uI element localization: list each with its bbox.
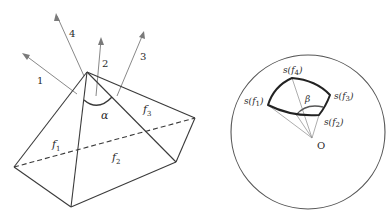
- normal-label-4: 4: [69, 28, 75, 39]
- ray-O-f1: [268, 105, 312, 138]
- vertex-label-sf1: s(f1): [244, 96, 264, 108]
- ray-O-f2b: [296, 114, 312, 138]
- normal-arrow-4: [54, 13, 84, 76]
- edge-apex-bottom: [71, 72, 87, 207]
- edge-base-bottom-right: [71, 162, 176, 207]
- center-label-O: O: [317, 140, 325, 151]
- normal-label-1: 1: [37, 75, 43, 86]
- vertex-label-sf2: s(f2): [324, 117, 344, 129]
- sphere-panel: s(f4) s(f1) s(f3) s(f2) β O: [231, 55, 385, 209]
- ray-O-f4: [292, 78, 312, 138]
- normal-arrow-1: [22, 53, 77, 94]
- normal-label-3: 3: [140, 51, 146, 62]
- edge-base-left-bottom: [14, 167, 71, 207]
- spherical-polygon: [268, 78, 330, 115]
- edge-apex-left: [14, 72, 87, 167]
- hidden-edge-base: [14, 118, 195, 167]
- angle-alpha-arc: [84, 97, 112, 105]
- normal-label-2: 2: [102, 58, 108, 69]
- angle-alpha-label: α: [101, 109, 109, 122]
- figure: 1 2 3 4 α f1 f2 f3 s(f4) s(f1) s(f3) s(f…: [0, 0, 392, 223]
- edge-base-right: [176, 118, 195, 162]
- face-label-f1: f1: [51, 138, 61, 153]
- pyramid-panel: 1 2 3 4 α f1 f2 f3: [14, 13, 195, 207]
- vertex-label-sf3: s(f3): [334, 91, 354, 103]
- face-label-f2: f2: [111, 151, 121, 166]
- angle-beta-label: β: [304, 94, 310, 104]
- face-label-f3: f3: [142, 103, 152, 118]
- vertex-label-sf4: s(f4): [283, 65, 303, 77]
- ray-O-f2: [312, 115, 319, 138]
